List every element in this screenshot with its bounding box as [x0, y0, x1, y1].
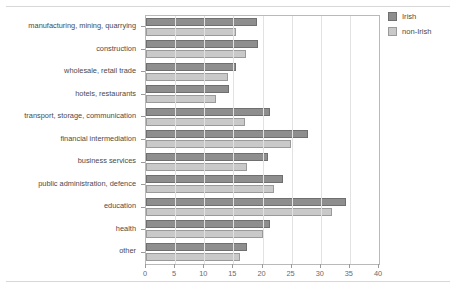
category-axis-label: transport, storage, communication	[24, 105, 136, 128]
category-axis-label: business services	[78, 150, 136, 173]
bar-non-irish	[146, 163, 247, 171]
category-axis-tick	[141, 139, 145, 140]
bar-non-irish	[146, 73, 228, 81]
legend-swatch-icon	[388, 27, 397, 36]
category-axis-tick	[141, 184, 145, 185]
bar-irish	[146, 40, 258, 48]
category-axis-label: hotels, restaurants	[75, 83, 136, 106]
category-axis-label: public administration, defence	[38, 173, 136, 196]
gridline	[292, 16, 293, 264]
bar-irish	[146, 85, 229, 93]
x-axis-tick	[145, 264, 146, 268]
bar-irish	[146, 220, 270, 228]
plot-area	[145, 15, 380, 265]
x-axis-tick-label: 40	[363, 269, 393, 278]
gridline	[350, 16, 351, 264]
x-axis-tick	[262, 264, 263, 268]
category-axis-label: construction	[96, 38, 136, 61]
x-axis-tick	[232, 264, 233, 268]
category-axis-label: manufacturing, mining, quarrying	[28, 15, 136, 38]
legend-item[interactable]: Irish	[388, 12, 454, 21]
x-axis-tick-label: 5	[159, 269, 189, 278]
x-axis-tick-label: 25	[276, 269, 306, 278]
bar-irish	[146, 63, 236, 71]
bottom-divider	[6, 281, 450, 282]
legend-label: Irish	[402, 12, 416, 21]
top-divider	[6, 6, 450, 7]
category-axis-tick	[141, 116, 145, 117]
x-axis-tick-label: 20	[247, 269, 277, 278]
x-axis-tick	[291, 264, 292, 268]
x-axis-tick	[320, 264, 321, 268]
category-axis-tick	[141, 207, 145, 208]
legend-swatch-icon	[388, 12, 397, 21]
bar-non-irish	[146, 118, 245, 126]
legend-item[interactable]: non-Irish	[388, 27, 454, 36]
x-axis-tick	[349, 264, 350, 268]
x-axis-tick	[174, 264, 175, 268]
category-axis-tick	[141, 71, 145, 72]
category-axis-label: wholesale, retail trade	[64, 60, 136, 83]
x-axis-tick-label: 0	[130, 269, 160, 278]
gridline	[175, 16, 176, 264]
category-axis-tick	[141, 162, 145, 163]
gridline	[321, 16, 322, 264]
category-axis-label: other	[119, 240, 136, 263]
bar-non-irish	[146, 50, 246, 58]
category-axis-label: health	[116, 218, 136, 241]
gridline	[204, 16, 205, 264]
bar-irish	[146, 153, 268, 161]
bar-non-irish	[146, 208, 332, 216]
category-axis-tick	[141, 26, 145, 27]
category-axis-label: education	[104, 195, 136, 218]
category-axis-tick	[141, 229, 145, 230]
gridline	[233, 16, 234, 264]
legend-label: non-Irish	[402, 27, 432, 36]
bar-non-irish	[146, 185, 274, 193]
chart-figure: manufacturing, mining, quarryingconstruc…	[0, 0, 456, 291]
category-axis-label: financial intermediation	[60, 128, 136, 151]
bar-irish	[146, 18, 257, 26]
bar-irish	[146, 108, 270, 116]
x-axis-tick	[203, 264, 204, 268]
x-axis-tick-label: 15	[217, 269, 247, 278]
category-axis: manufacturing, mining, quarryingconstruc…	[0, 15, 141, 263]
category-axis-tick	[141, 94, 145, 95]
bar-non-irish	[146, 95, 216, 103]
gridline	[263, 16, 264, 264]
bar-irish	[146, 130, 308, 138]
category-axis-tick	[141, 252, 145, 253]
bar-non-irish	[146, 28, 236, 36]
x-axis-tick	[378, 264, 379, 268]
x-axis-tick-label: 30	[305, 269, 335, 278]
bar-non-irish	[146, 140, 291, 148]
bar-irish	[146, 243, 247, 251]
x-axis-tick-label: 10	[188, 269, 218, 278]
x-axis-tick-label: 35	[334, 269, 364, 278]
chart-legend: Irishnon-Irish	[388, 12, 454, 42]
category-axis-tick	[141, 49, 145, 50]
bar-non-irish	[146, 253, 240, 261]
